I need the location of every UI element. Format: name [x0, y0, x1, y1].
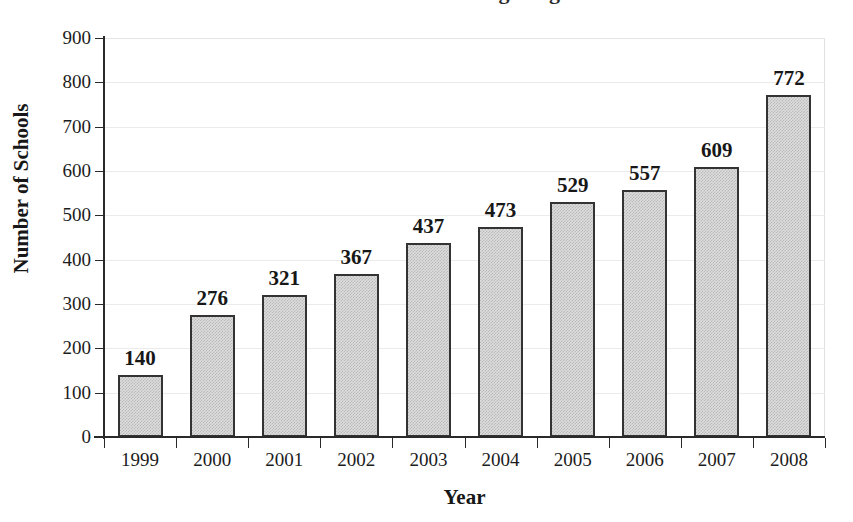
y-axis-tick	[95, 38, 104, 39]
bar-2007[interactable]	[694, 167, 739, 437]
bar-2003[interactable]	[406, 243, 451, 437]
x-axis-tick	[609, 438, 610, 448]
bar-2002[interactable]	[334, 274, 379, 437]
bar-2008[interactable]	[766, 95, 811, 437]
y-axis-tick-label-text: 500	[39, 205, 91, 224]
y-axis-tick-label-text: 400	[39, 250, 91, 269]
y-axis-tick-label-text: 200	[39, 338, 91, 357]
bar-value-label-2005: 529	[533, 175, 613, 196]
x-axis-tick	[392, 438, 393, 448]
x-axis-tick-label-1999: 1999	[100, 449, 180, 471]
y-axis-tick	[95, 304, 104, 305]
y-axis-tick	[95, 127, 104, 128]
bar-value-label-2008: 772	[749, 68, 829, 89]
x-axis-title: Year	[104, 486, 825, 508]
gridline	[104, 38, 825, 39]
y-axis-tick-label: 100	[36, 383, 91, 402]
y-axis-tick	[95, 393, 104, 394]
bar-value-label-2001: 321	[244, 268, 324, 289]
y-axis-tick-label-text: 0	[39, 427, 91, 446]
bar-value-label-2004: 473	[461, 200, 541, 221]
y-axis-title: Number of Schools	[11, 89, 32, 289]
y-axis-tick-label: 500	[36, 205, 91, 224]
y-axis-tick-label: 200	[36, 338, 91, 357]
gridline	[104, 127, 825, 128]
y-axis-tick-label-text: 700	[39, 117, 91, 136]
y-axis-tick	[95, 171, 104, 172]
bar-2006[interactable]	[622, 190, 667, 437]
gridline	[104, 82, 825, 83]
y-axis-tick-label-text: 300	[39, 294, 91, 313]
y-axis-tick-label-text: 800	[39, 72, 91, 91]
bar-value-label-2003: 437	[388, 216, 468, 237]
plot-area	[104, 38, 825, 437]
x-axis-tick	[753, 438, 754, 448]
x-axis-tick-label-2001: 2001	[244, 449, 324, 471]
x-axis-line	[94, 436, 825, 438]
x-axis-tick	[248, 438, 249, 448]
y-axis-tick-label: 900	[36, 28, 91, 47]
x-axis-tick-label-2008: 2008	[749, 449, 829, 471]
x-axis-tick	[465, 438, 466, 448]
y-axis-tick-label-text: 900	[39, 28, 91, 47]
bar-value-label-2007: 609	[677, 140, 757, 161]
y-axis-tick-label-text: 100	[39, 383, 91, 402]
y-axis-tick	[95, 82, 104, 83]
y-axis-tick	[95, 215, 104, 216]
bar-2000[interactable]	[190, 315, 235, 437]
x-axis-tick-label-2000: 2000	[172, 449, 252, 471]
x-axis-tick	[176, 438, 177, 448]
y-axis-line	[103, 36, 105, 439]
y-axis-tick-label: 400	[36, 250, 91, 269]
bar-2004[interactable]	[478, 227, 523, 437]
x-axis-tick-label-2005: 2005	[533, 449, 613, 471]
bar-2005[interactable]	[550, 202, 595, 437]
y-axis-tick	[95, 260, 104, 261]
bar-value-label-2002: 367	[316, 247, 396, 268]
bar-1999[interactable]	[118, 375, 163, 437]
x-axis-tick	[825, 438, 826, 448]
bar-value-label-2000: 276	[172, 288, 252, 309]
x-axis-tick	[537, 438, 538, 448]
y-axis-tick-label: 700	[36, 117, 91, 136]
bar-value-label-2006: 557	[605, 163, 685, 184]
y-axis-tick	[95, 437, 104, 438]
bar-2001[interactable]	[262, 295, 307, 437]
x-axis-tick	[104, 438, 105, 448]
y-axis-tick-label: 600	[36, 161, 91, 180]
bar-value-label-1999: 140	[100, 348, 180, 369]
x-axis-tick-label-2002: 2002	[316, 449, 396, 471]
y-axis-tick-label: 800	[36, 72, 91, 91]
x-axis-tick	[320, 438, 321, 448]
x-axis-tick-label-2004: 2004	[461, 449, 541, 471]
x-axis-tick-label-2007: 2007	[677, 449, 757, 471]
x-axis-tick-label-2006: 2006	[605, 449, 685, 471]
x-axis-tick-label-2003: 2003	[388, 449, 468, 471]
x-axis-tick	[681, 438, 682, 448]
y-axis-tick-label: 0	[36, 427, 91, 446]
y-axis-tick-label-text: 600	[39, 161, 91, 180]
y-axis-tick-label: 300	[36, 294, 91, 313]
bar-chart: Number of Schools Year 01002003004005006…	[0, 0, 853, 522]
plot-right-border	[824, 38, 825, 437]
